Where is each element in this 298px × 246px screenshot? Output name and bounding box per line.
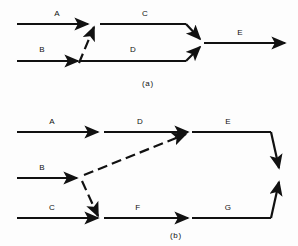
panel-a-edge-c-label: C [142,9,148,18]
panel-a-edge-b-to-a-dashed [79,27,94,63]
panel-a-edge-c-merge [186,24,200,39]
panel-b [17,132,279,218]
panel-b-edge-b-label: B [39,163,45,172]
edges-layer [17,24,285,218]
panel-b-edge-a-label: A [49,117,55,126]
panel-a-edge-b-label: B [39,45,45,54]
panel-b-edge-g-merge [271,182,279,218]
flow-diagram-figure: ABCDE(a)ADBCFEG(b) [0,0,298,246]
panel-a-edge-d-merge [186,47,200,61]
panel-b-edge-e-label: E [225,117,231,126]
panel-b-edge-b-to-d-dashed [84,134,186,175]
panel-b-edge-g-label: G [225,203,232,212]
panel-b-edge-d-label: D [137,117,143,126]
panel-b-edge-e-merge [271,132,279,168]
figure-root: ABCDE(a)ADBCFEG(b) [0,0,298,246]
panel-a [17,24,285,63]
panel-a-edge-d-label: D [130,45,136,54]
panel-b-caption: (b) [170,231,182,240]
panel-b-edge-f-label: F [135,203,140,212]
panel-b-edge-b-to-c-dashed [82,181,98,216]
panel-a-caption: (a) [142,79,154,88]
panel-a-edge-e-label: E [237,28,243,37]
panel-a-edge-a-label: A [54,9,60,18]
panel-b-edge-c-label: C [49,203,55,212]
